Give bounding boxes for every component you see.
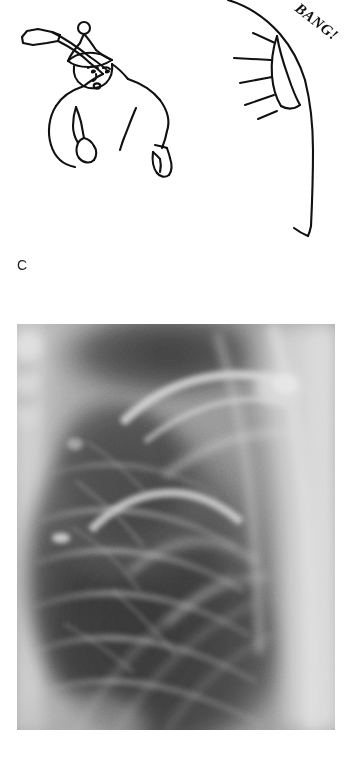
- impact-rays: [234, 33, 277, 119]
- panel-label-c: C: [17, 258, 27, 272]
- hockey-stick-icon: [22, 29, 90, 63]
- left-mitt-icon: [73, 107, 96, 162]
- panel-c: BANG! C: [0, 0, 357, 290]
- right-mitt-icon: [120, 108, 171, 177]
- panel-c-line-drawing: BANG!: [0, 0, 357, 250]
- xray-image: m: [17, 324, 335, 730]
- svg-text:BANG!: BANG!: [291, 0, 341, 43]
- impact-text: BANG!: [291, 0, 341, 43]
- curved-board: [228, 0, 313, 236]
- panel-d: m D: [0, 300, 357, 763]
- figure-page: BANG! C: [0, 0, 357, 763]
- xray-rendering: [17, 324, 335, 730]
